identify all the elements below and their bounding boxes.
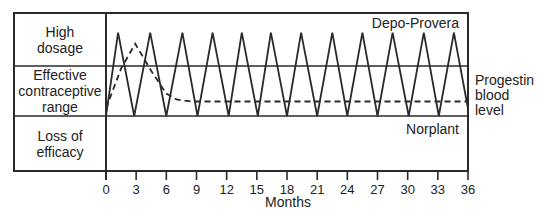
- norplant-label: Norplant: [406, 121, 459, 137]
- x-tick-label: 21: [310, 182, 324, 197]
- band-high-label: dosage: [37, 40, 83, 56]
- band-effective-label: contraceptive: [18, 83, 101, 99]
- series-lines: [106, 33, 468, 116]
- y-axis-title: Progestin: [475, 72, 534, 88]
- band-effective-label: range: [42, 99, 78, 115]
- band-high-label: High: [46, 24, 75, 40]
- x-tick-label: 0: [102, 182, 109, 197]
- progestin-chart: HighdosageEffectivecontraceptiverangeLos…: [0, 0, 544, 222]
- band-effective-label: Effective: [33, 67, 87, 83]
- band-loss-label: efficacy: [36, 144, 83, 160]
- x-tick-label: 12: [219, 182, 233, 197]
- x-axis-title: Months: [265, 194, 311, 210]
- annotations: Depo-Provera Norplant Months Progestinbl…: [265, 15, 534, 210]
- x-tick-label: 24: [340, 182, 354, 197]
- x-tick-label: 30: [400, 182, 414, 197]
- x-tick-label: 6: [163, 182, 170, 197]
- x-tick-label: 15: [250, 182, 264, 197]
- y-axis-title: level: [475, 102, 504, 118]
- depo-provera-label: Depo-Provera: [372, 15, 459, 31]
- x-tick-label: 3: [133, 182, 140, 197]
- depo-provera-line: [106, 33, 468, 116]
- band-loss-label: Loss of: [37, 128, 82, 144]
- x-tick-label: 27: [370, 182, 384, 197]
- band-labels: HighdosageEffectivecontraceptiverangeLos…: [18, 24, 101, 160]
- y-axis-title: blood: [475, 87, 509, 103]
- x-tick-label: 36: [461, 182, 475, 197]
- norplant-line: [106, 44, 468, 109]
- x-tick-label: 9: [193, 182, 200, 197]
- x-tick-label: 33: [431, 182, 445, 197]
